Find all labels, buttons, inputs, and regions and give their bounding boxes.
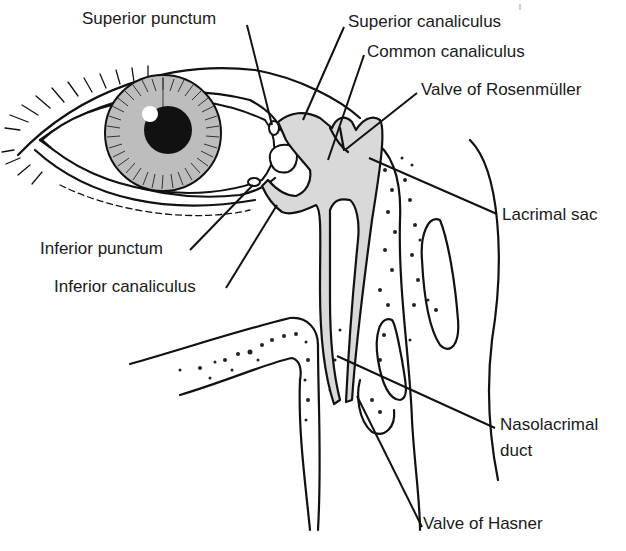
label-superior-canaliculus: Superior canaliculus	[348, 12, 501, 32]
label-nasolacrimal-duct-line2: duct	[500, 441, 532, 461]
label-common-canaliculus: Common canaliculus	[367, 42, 525, 62]
leader-lines	[190, 25, 497, 527]
label-nasolacrimal-duct: Nasolacrimal	[500, 415, 598, 435]
label-valve-of-hasner: Valve of Hasner	[423, 514, 543, 534]
label-lacrimal-sac: Lacrimal sac	[502, 205, 597, 225]
eyeball	[42, 75, 274, 193]
label-superior-punctum: Superior punctum	[82, 9, 216, 29]
light-reflection	[142, 106, 158, 122]
label-valve-of-rosenmuller: Valve of Rosenmüller	[421, 80, 581, 100]
label-inferior-canaliculus: Inferior canaliculus	[54, 277, 196, 297]
inferior-punctum-opening	[248, 178, 260, 186]
label-inferior-punctum: Inferior punctum	[40, 239, 163, 259]
